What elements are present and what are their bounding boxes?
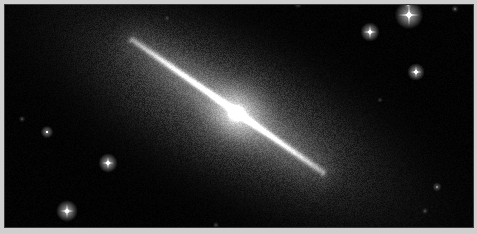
image-frame-border — [0, 0, 477, 234]
galaxy-sky-canvas — [5, 5, 473, 227]
image-frame-inner — [4, 4, 474, 228]
sky-background — [5, 5, 473, 227]
astronomy-image-figure: edge-on spiral #eeeeee #9a9a9a — [0, 0, 477, 234]
